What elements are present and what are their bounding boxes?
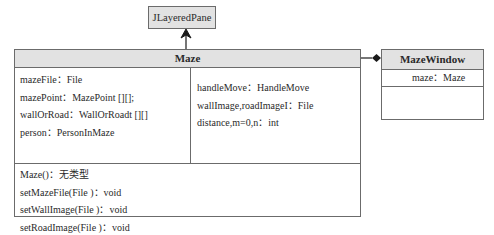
methods-section: Maze()：无类型 setMazeFile(File )：void setWa… [15, 164, 360, 234]
class-maze: Maze mazeFile：File mazePoint：MazePoint [… [14, 49, 361, 217]
class-name: Maze [175, 52, 201, 64]
method: setRoadImage(File )：void [20, 219, 360, 235]
attribute: maze：Maze [382, 70, 483, 87]
attribute: wallOrRoad：WallOrRoadt [][] [20, 106, 190, 124]
inheritance-arrowhead-icon [181, 29, 191, 38]
attribute: wallImage,roadImageI：File [197, 97, 360, 115]
method: Maze()：无类型 [20, 166, 360, 184]
attribute: distance,m=0,n：int [197, 114, 360, 132]
class-header: MazeWindow [382, 50, 483, 70]
attributes-right-column: handleMove：HandleMove wallImage,roadImag… [192, 67, 360, 163]
attribute: person：PersonInMaze [20, 124, 190, 142]
attribute: handleMove：HandleMove [197, 79, 360, 97]
class-name: MazeWindow [400, 53, 465, 65]
method: setWallImage(File )：void [20, 201, 360, 219]
composition-diamond-icon [372, 54, 381, 62]
class-jlayeredpane: JLayeredPane [148, 6, 216, 29]
attributes-left-column: mazeFile：File mazePoint：MazePoint [][]; … [15, 67, 191, 163]
class-header: Maze [15, 50, 360, 68]
method: setMazeFile(File )：void [20, 184, 360, 202]
attribute: mazeFile：File [20, 71, 190, 89]
attributes-section: mazeFile：File mazePoint：MazePoint [][]; … [15, 67, 360, 164]
class-mazewindow: MazeWindow maze：Maze [381, 49, 484, 120]
attribute: mazePoint：MazePoint [][]; [20, 89, 190, 107]
class-name: JLayeredPane [153, 12, 212, 23]
